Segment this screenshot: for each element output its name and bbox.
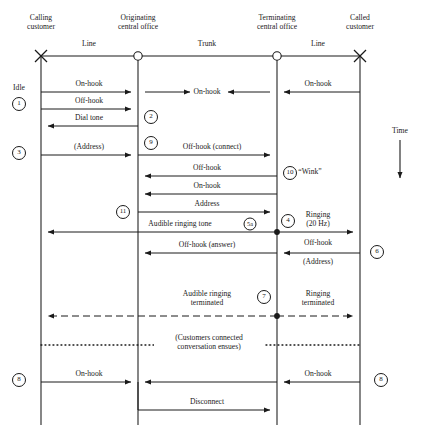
step-marker-7: 7	[257, 290, 271, 304]
art-line-2: terminated	[162, 299, 252, 308]
step-marker-8-left: 8	[12, 373, 26, 387]
header-line-2: central office	[242, 23, 312, 32]
step-marker-2: 2	[144, 110, 158, 124]
column-header-originating: Originating central office	[103, 14, 173, 31]
step-marker-8-right: 8	[374, 373, 388, 387]
message-address-3: (Address)	[303, 258, 333, 267]
column-header-called: Called customer	[325, 14, 395, 31]
diagram-canvas	[0, 0, 428, 433]
message-address-1: (Address)	[74, 143, 104, 152]
message-customers-connected: (Customers connected conversation ensues…	[154, 334, 264, 351]
message-on-hook-final-right: On-hook	[305, 370, 332, 379]
step-marker-3: 3	[12, 146, 26, 160]
message-on-hook-line-right: On-hook	[305, 80, 332, 89]
step-marker-9: 9	[144, 136, 158, 150]
message-audible-ringing-tone: Audible ringing tone	[148, 220, 211, 229]
message-on-hook-line-left: On-hook	[76, 80, 103, 89]
junction-dot-terminated	[274, 313, 280, 319]
cc-line-2: conversation ensues)	[154, 343, 264, 352]
message-on-hook-final-left: On-hook	[76, 370, 103, 379]
message-off-hook-right: Off-hook	[304, 239, 332, 248]
rt-line-2: terminated	[283, 299, 353, 308]
signaling-diagram: Calling customer Originating central off…	[0, 0, 428, 433]
message-disconnect: Disconnect	[190, 398, 224, 407]
message-audible-ringing-terminated: Audible ringing terminated	[162, 290, 252, 307]
segment-label-trunk: Trunk	[198, 40, 216, 49]
message-address-2: Address	[195, 200, 220, 209]
message-ringing-terminated: Ringing terminated	[283, 290, 353, 307]
message-dial-tone: Dial tone	[75, 114, 103, 123]
message-on-hook-trunk: On-hook	[191, 88, 224, 97]
message-off-hook-connect: Off-hook (connect)	[183, 143, 242, 152]
header-line-2: customer	[325, 23, 395, 32]
terminal-circle-originating	[134, 52, 142, 60]
state-label-idle: Idle	[13, 84, 25, 93]
column-header-calling: Calling customer	[6, 14, 76, 31]
step-marker-4: 4	[281, 214, 295, 228]
step-marker-6: 6	[370, 245, 384, 259]
message-off-hook-1: Off-hook	[75, 97, 103, 106]
terminal-circle-terminating	[273, 52, 281, 60]
step-marker-1: 1	[12, 97, 26, 111]
header-line-2: customer	[6, 23, 76, 32]
message-off-hook-wink: Off-hook	[193, 164, 221, 173]
message-off-hook-answer: Off-hook (answer)	[179, 241, 236, 250]
segment-label-line-left: Line	[82, 40, 96, 49]
message-on-hook-wink: On-hook	[194, 182, 221, 191]
segment-label-line-right: Line	[311, 40, 325, 49]
time-label: Time	[392, 127, 408, 136]
column-header-terminating: Terminating central office	[242, 14, 312, 31]
step-marker-5a: 5a	[244, 218, 257, 231]
junction-dot-ringing	[274, 229, 280, 235]
message-wink: “Wink”	[298, 168, 321, 177]
step-marker-11: 11	[116, 205, 130, 219]
step-marker-10: 10	[283, 166, 297, 180]
header-line-2: central office	[103, 23, 173, 32]
